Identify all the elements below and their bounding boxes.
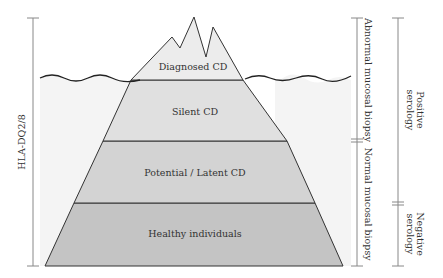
label-negative-serology-2: serology [405, 214, 416, 256]
label-normal-mucosal-biopsy: Normal mucosal biopsy [363, 147, 374, 261]
biopsy-bracket [351, 18, 363, 266]
label-silent-cd: Silent CD [172, 106, 218, 117]
label-diagnosed-cd: Diagnosed CD [159, 61, 228, 72]
label-healthy-individuals: Healthy individuals [148, 228, 242, 239]
label-potential-latent-cd: Potential / Latent CD [144, 167, 246, 178]
label-positive-serology-2: serology [405, 90, 416, 132]
serology-bracket [392, 18, 404, 266]
celiac-iceberg-diagram: Diagnosed CD Silent CD Potential / Laten… [0, 0, 443, 278]
label-hla-dq2-8: HLA-DQ2/8 [16, 114, 27, 169]
hla-bracket [27, 18, 39, 266]
label-abnormal-mucosal-biopsy: Abnormal mucosal biopsy [363, 17, 374, 143]
